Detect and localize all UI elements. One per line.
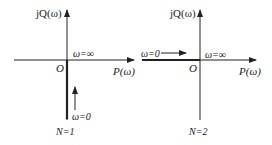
left-origin-label: O — [56, 63, 64, 74]
right-x-axis-label: P(ω) — [239, 66, 261, 77]
left-caption: N=1 — [56, 126, 74, 137]
right-origin-label: O — [189, 63, 197, 74]
left-y-axis-label: jQ(ω) — [36, 8, 62, 19]
left-omega-zero-label: ω=0 — [72, 111, 91, 122]
right-omega-inf-label: ω=∞ — [205, 49, 226, 60]
right-y-axis-label: jQ(ω) — [170, 8, 196, 19]
right-omega-zero-label: ω=0 — [141, 48, 160, 59]
left-omega-inf-label: ω=∞ — [73, 48, 94, 59]
nyquist-diagram — [0, 0, 272, 145]
left-x-axis-label: P(ω) — [113, 66, 135, 77]
right-caption: N=2 — [189, 126, 207, 137]
